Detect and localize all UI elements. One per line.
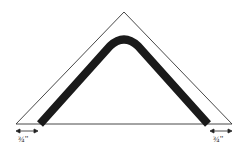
outer-triangle: [16, 12, 232, 124]
left-dimension-label: ¾": [18, 134, 28, 144]
right-dimension-arrow: [210, 129, 232, 133]
curved-band: [40, 40, 208, 125]
triangle-diagram: [0, 0, 248, 149]
left-dimension-arrow: [16, 129, 38, 133]
right-dimension-label: ¾": [213, 134, 223, 144]
